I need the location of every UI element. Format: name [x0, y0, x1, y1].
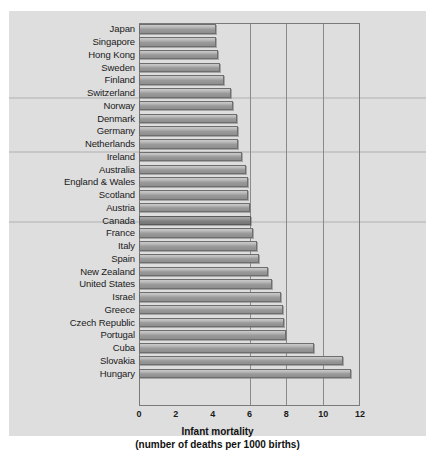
bar-row: Scotland [9, 189, 360, 202]
bar-singapore [139, 37, 216, 47]
bar-row: United States [9, 278, 360, 291]
bar-track [139, 304, 360, 317]
category-label-ireland: Ireland [9, 152, 139, 162]
bar-track [139, 355, 360, 368]
bar-track [139, 23, 360, 36]
bar-canada [139, 216, 251, 226]
category-label-japan: Japan [9, 24, 139, 34]
bar-australia [139, 165, 246, 175]
bar-france [139, 228, 253, 238]
bar-row: Switzerland [9, 87, 360, 100]
bar-track [139, 74, 360, 87]
category-label-italy: Italy [9, 241, 139, 251]
bar-italy [139, 241, 257, 251]
category-label-austria: Austria [9, 203, 139, 213]
bar-scotland [139, 190, 248, 200]
bar-row: Slovakia [9, 355, 360, 368]
bar-track [139, 176, 360, 189]
bar-row: Czech Republic [9, 316, 360, 329]
bar-row: Austria [9, 202, 360, 215]
bar-track [139, 214, 360, 227]
bar-netherlands [139, 139, 238, 149]
bar-row: England & Wales [9, 176, 360, 189]
bar-switzerland [139, 88, 231, 98]
bar-row: Israel [9, 291, 360, 304]
x-tick-12: 12 [355, 409, 365, 419]
bar-portugal [139, 330, 286, 340]
category-label-cuba: Cuba [9, 343, 139, 353]
bar-track [139, 253, 360, 266]
bar-israel [139, 292, 281, 302]
bar-track [139, 87, 360, 100]
infant-mortality-bar-chart: JapanSingaporeHong KongSwedenFinlandSwit… [9, 11, 426, 436]
bar-track [139, 49, 360, 62]
x-tick-8: 8 [284, 409, 289, 419]
bar-finland [139, 75, 224, 85]
x-axis-title-line2: (number of deaths per 1000 births) [9, 438, 426, 451]
bar-denmark [139, 114, 237, 124]
x-tick-10: 10 [318, 409, 328, 419]
bar-row: Hungary [9, 367, 360, 380]
bar-track [139, 189, 360, 202]
x-tick-0: 0 [136, 409, 141, 419]
bar-hungary [139, 369, 351, 379]
figure: JapanSingaporeHong KongSwedenFinlandSwit… [0, 0, 435, 460]
bar-row: Norway [9, 100, 360, 113]
category-label-scotland: Scotland [9, 190, 139, 200]
bar-row: Finland [9, 74, 360, 87]
bar-track [139, 151, 360, 164]
bar-track [139, 138, 360, 151]
category-label-hungary: Hungary [9, 369, 139, 379]
bar-row: Greece [9, 304, 360, 317]
category-label-greece: Greece [9, 305, 139, 315]
bar-track [139, 240, 360, 253]
bar-row: Spain [9, 253, 360, 266]
bar-row: Cuba [9, 342, 360, 355]
bar-track [139, 329, 360, 342]
bar-row: Portugal [9, 329, 360, 342]
bar-track [139, 100, 360, 113]
bar-cuba [139, 343, 314, 353]
bar-row: Germany [9, 125, 360, 138]
bar-spain [139, 254, 259, 264]
bar-new-zealand [139, 267, 268, 277]
bar-hong-kong [139, 50, 218, 60]
bar-greece [139, 305, 283, 315]
category-label-denmark: Denmark [9, 114, 139, 124]
bar-row: Singapore [9, 36, 360, 49]
category-label-sweden: Sweden [9, 63, 139, 73]
bar-norway [139, 101, 233, 111]
bar-row: Netherlands [9, 138, 360, 151]
category-label-hong-kong: Hong Kong [9, 50, 139, 60]
bar-row: New Zealand [9, 265, 360, 278]
bar-row: Canada [9, 214, 360, 227]
bar-austria [139, 203, 250, 213]
bar-sweden [139, 63, 220, 73]
category-label-spain: Spain [9, 254, 139, 264]
bar-track [139, 36, 360, 49]
bar-germany [139, 126, 238, 136]
category-label-czech-republic: Czech Republic [9, 318, 139, 328]
bar-row: Ireland [9, 151, 360, 164]
x-tick-6: 6 [247, 409, 252, 419]
category-label-portugal: Portugal [9, 330, 139, 340]
category-label-england-wales: England & Wales [9, 177, 139, 187]
bar-czech-republic [139, 318, 284, 328]
bar-row: Australia [9, 163, 360, 176]
x-axis-title: Infant mortality (number of deaths per 1… [9, 425, 426, 451]
bar-row: Italy [9, 240, 360, 253]
bar-track [139, 367, 360, 380]
bar-row: France [9, 227, 360, 240]
category-label-switzerland: Switzerland [9, 88, 139, 98]
category-label-singapore: Singapore [9, 37, 139, 47]
bar-row: Denmark [9, 112, 360, 125]
category-label-australia: Australia [9, 165, 139, 175]
bar-ireland [139, 152, 242, 162]
bar-track [139, 202, 360, 215]
category-label-germany: Germany [9, 126, 139, 136]
category-label-netherlands: Netherlands [9, 139, 139, 149]
category-label-norway: Norway [9, 101, 139, 111]
x-tick-4: 4 [210, 409, 215, 419]
bar-track [139, 342, 360, 355]
bar-row: Japan [9, 23, 360, 36]
